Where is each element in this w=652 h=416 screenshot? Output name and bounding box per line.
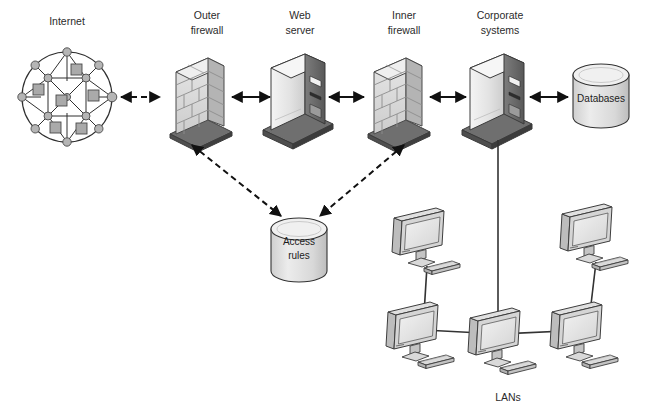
internet-node: [18, 48, 117, 146]
lan-workstation-bottom-left: [386, 302, 454, 369]
corporate-systems-label-line2: systems: [481, 24, 520, 36]
internet-label: Internet: [49, 15, 85, 27]
access-rules-label-line1: Access: [283, 236, 315, 247]
databases-label: Databases: [577, 93, 625, 104]
outer-firewall-label-line2: firewall: [191, 24, 224, 36]
inner-firewall-label-line1: Inner: [392, 9, 416, 21]
outer-firewall-node: [170, 58, 232, 152]
web-server-node: [263, 54, 333, 149]
lan-workstation-top-left: [392, 208, 460, 275]
web-server-label-line1: Web: [289, 9, 311, 21]
web-server-label-line2: server: [285, 24, 315, 36]
connection-inner-firewall-access-rules: [320, 145, 404, 216]
corporate-systems-node: [462, 54, 532, 149]
inner-firewall-node: [368, 58, 430, 152]
lan-workstation-bottom-right: [550, 302, 618, 369]
network-diagram-canvas: Internet Outer firewall Web server Inner…: [0, 0, 652, 416]
connection-outer-firewall-access-rules: [192, 145, 281, 216]
corporate-systems-label-line1: Corporate: [477, 9, 524, 21]
lans-label: LANs: [495, 391, 521, 403]
access-rules-label-line2: rules: [288, 250, 310, 261]
lan-workstation-top-right: [560, 204, 628, 271]
lan-workstation-bottom-center: [468, 308, 536, 375]
outer-firewall-label-line1: Outer: [194, 9, 221, 21]
inner-firewall-label-line2: firewall: [388, 24, 421, 36]
